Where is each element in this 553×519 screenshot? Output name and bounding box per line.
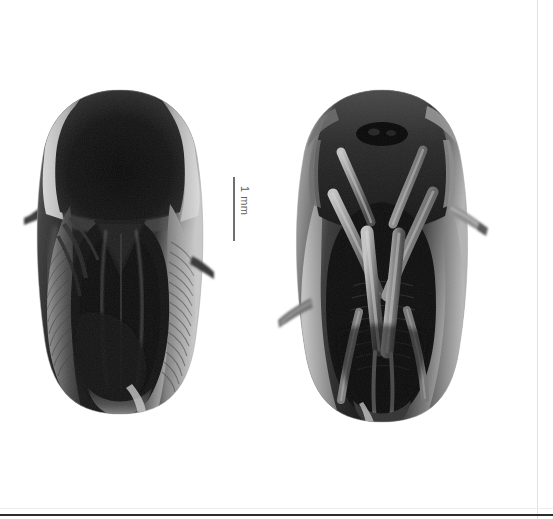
right-specimen-body (275, 82, 490, 432)
specimen-plate: 1 mm (0, 0, 553, 519)
left-specimen-body (20, 84, 220, 424)
specimen-left-dorsal (20, 84, 220, 424)
scan-frame-right-edge (537, 0, 538, 519)
scan-frame-bottom-edge (0, 514, 553, 516)
scale-bar-line (233, 177, 235, 241)
scan-frame-bottom-faint-edge (0, 508, 553, 509)
specimen-right-ventral (275, 82, 490, 432)
scale-bar-label: 1 mm (238, 186, 252, 234)
